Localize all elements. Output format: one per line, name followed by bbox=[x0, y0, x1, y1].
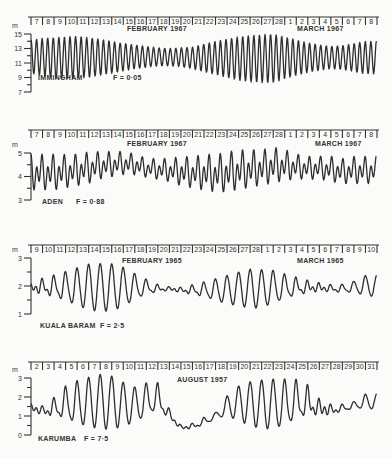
station-label: KARUMBA bbox=[38, 435, 76, 442]
month-label: FEBRUARY 1967 bbox=[127, 25, 187, 32]
day-label: 14 bbox=[171, 363, 179, 370]
day-label: 5 bbox=[335, 18, 339, 25]
day-label: 19 bbox=[171, 131, 179, 138]
unit-label: m bbox=[12, 141, 18, 148]
day-label: 10 bbox=[367, 246, 375, 253]
day-label: 19 bbox=[171, 18, 179, 25]
day-label: 27 bbox=[240, 246, 248, 253]
day-label: 6 bbox=[346, 131, 350, 138]
day-label: 8 bbox=[104, 363, 108, 370]
day-label: 21 bbox=[194, 18, 202, 25]
day-label: 19 bbox=[229, 363, 237, 370]
y-tick-label: 1 bbox=[18, 311, 22, 318]
day-label: 15 bbox=[102, 246, 110, 253]
unit-label: m bbox=[12, 22, 18, 29]
station-label: IMMINGHAM bbox=[38, 74, 83, 81]
day-label: 31 bbox=[367, 363, 375, 370]
day-label: 9 bbox=[58, 18, 62, 25]
day-label: 29 bbox=[344, 363, 352, 370]
day-label: 7 bbox=[358, 18, 362, 25]
day-label: 25 bbox=[240, 18, 248, 25]
y-tick-label: 1 bbox=[18, 413, 22, 420]
day-label: 2 bbox=[35, 363, 39, 370]
form-factor-label: F = 0·05 bbox=[113, 74, 142, 81]
day-label: 21 bbox=[194, 131, 202, 138]
day-label: 23 bbox=[217, 131, 225, 138]
day-label: 25 bbox=[217, 246, 225, 253]
day-label: 14 bbox=[91, 246, 99, 253]
day-label: 1 bbox=[289, 18, 293, 25]
day-label: 17 bbox=[148, 18, 156, 25]
day-label: 8 bbox=[369, 131, 373, 138]
day-label: 12 bbox=[67, 246, 75, 253]
day-label: 8 bbox=[346, 246, 350, 253]
day-label: 27 bbox=[321, 363, 329, 370]
day-label: 30 bbox=[356, 363, 364, 370]
day-label: 24 bbox=[206, 246, 214, 253]
day-label: 7 bbox=[35, 18, 39, 25]
y-tick-label: 4 bbox=[18, 173, 22, 180]
station-label: ADEN bbox=[42, 198, 63, 205]
form-factor-label: F = 2·5 bbox=[100, 322, 124, 329]
day-label: 10 bbox=[67, 131, 75, 138]
day-label: 23 bbox=[217, 18, 225, 25]
day-label: 14 bbox=[114, 18, 122, 25]
day-label: 2 bbox=[277, 246, 281, 253]
day-label: 9 bbox=[358, 246, 362, 253]
month-label: FEBRUARY 1965 bbox=[122, 257, 182, 264]
form-factor-label: F = 0·88 bbox=[76, 198, 105, 205]
day-label: 5 bbox=[69, 363, 73, 370]
day-label: 10 bbox=[125, 363, 133, 370]
day-label: 2 bbox=[300, 131, 304, 138]
day-label: 17 bbox=[125, 246, 133, 253]
day-label: 4 bbox=[300, 246, 304, 253]
day-label: 10 bbox=[67, 18, 75, 25]
day-label: 23 bbox=[275, 363, 283, 370]
day-label: 9 bbox=[35, 246, 39, 253]
day-label: 13 bbox=[160, 363, 168, 370]
day-label: 11 bbox=[137, 363, 144, 370]
day-label: 2 bbox=[300, 18, 304, 25]
day-label: 3 bbox=[46, 363, 50, 370]
day-label: 20 bbox=[183, 18, 191, 25]
day-label: 17 bbox=[148, 131, 156, 138]
day-label: 11 bbox=[56, 246, 63, 253]
day-label: 28 bbox=[333, 363, 341, 370]
y-tick-label: 15 bbox=[14, 31, 22, 38]
day-label: 22 bbox=[183, 246, 191, 253]
day-label: 28 bbox=[275, 131, 283, 138]
day-label: 10 bbox=[44, 246, 52, 253]
y-tick-label: 9 bbox=[18, 74, 22, 81]
y-tick-label: 5 bbox=[18, 150, 22, 157]
day-label: 3 bbox=[312, 18, 316, 25]
day-label: 20 bbox=[160, 246, 168, 253]
day-label: 22 bbox=[264, 363, 272, 370]
day-label: 15 bbox=[183, 363, 191, 370]
day-label: 17 bbox=[206, 363, 214, 370]
day-label: 18 bbox=[217, 363, 225, 370]
day-label: 11 bbox=[79, 131, 86, 138]
day-label: 9 bbox=[116, 363, 120, 370]
month-label: AUGUST 1957 bbox=[177, 376, 227, 383]
day-label: 16 bbox=[194, 363, 202, 370]
y-tick-label: 0 bbox=[18, 432, 22, 439]
day-label: 26 bbox=[252, 131, 260, 138]
day-label: 24 bbox=[229, 18, 237, 25]
day-label: 20 bbox=[240, 363, 248, 370]
day-label: 15 bbox=[125, 18, 133, 25]
month-label: MARCH 1967 bbox=[315, 140, 362, 147]
day-label: 7 bbox=[358, 131, 362, 138]
day-label: 27 bbox=[264, 131, 272, 138]
form-factor-label: F = 7·5 bbox=[84, 435, 108, 442]
day-label: 24 bbox=[229, 131, 237, 138]
day-label: 7 bbox=[335, 246, 339, 253]
day-label: 16 bbox=[114, 246, 122, 253]
day-label: 5 bbox=[335, 131, 339, 138]
day-label: 22 bbox=[206, 18, 214, 25]
day-label: 6 bbox=[81, 363, 85, 370]
day-label: 1 bbox=[265, 246, 269, 253]
day-label: 9 bbox=[58, 131, 62, 138]
day-label: 11 bbox=[79, 18, 86, 25]
month-label: MARCH 1967 bbox=[297, 25, 344, 32]
day-label: 12 bbox=[91, 131, 99, 138]
